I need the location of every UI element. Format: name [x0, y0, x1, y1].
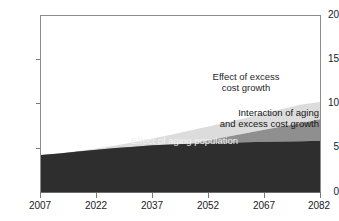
x-axis-tick-mark-2022	[96, 193, 97, 198]
x-axis-tick-mark-2082	[320, 193, 321, 198]
x-axis-tick-mark-2067	[264, 193, 265, 198]
x-axis-tick-label-2082: 2082	[299, 200, 339, 211]
series-label-interaction-of-aging-and-excess-cost-growth: Interaction of aging and excess cost gro…	[181, 107, 319, 129]
x-axis-tick-label-2037: 2037	[132, 200, 172, 211]
x-axis-tick-label-2067: 2067	[244, 200, 284, 211]
x-axis-tick-mark-2037	[152, 193, 153, 198]
x-axis-tick-label-2022: 2022	[76, 200, 116, 211]
plot-area: Effect of excess cost growth Interaction…	[40, 15, 321, 193]
stacked-area-chart: 20 15 10 5 0 Effect of excess cost growt…	[0, 0, 339, 221]
area-series-group	[41, 16, 320, 192]
x-axis-tick-mark-2052	[208, 193, 209, 198]
series-label-effect-of-aging-population: Effect of aging population	[131, 135, 311, 146]
series-label-effect-of-excess-cost-growth: Effect of excess cost growth	[191, 71, 301, 93]
x-axis-tick-mark-2007	[40, 193, 41, 198]
x-axis-tick-label-2052: 2052	[188, 200, 228, 211]
area-effect-of-aging-population	[41, 141, 320, 192]
x-axis-tick-label-2007: 2007	[20, 200, 60, 211]
